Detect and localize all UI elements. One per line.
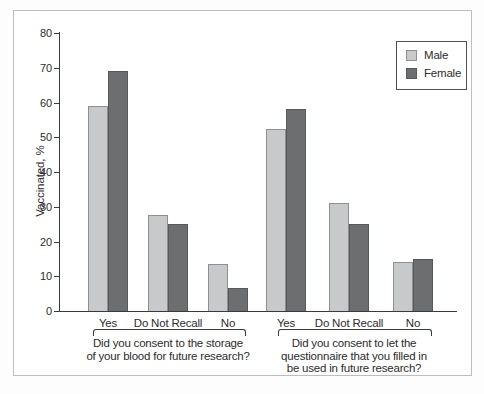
bar-group2-yes-male	[266, 129, 286, 311]
group-question: Did you consent to let thequestionnaire …	[281, 337, 427, 375]
y-tick	[54, 33, 59, 34]
group-question-line: be used in future research?	[281, 362, 427, 375]
group-question: Did you consent to the storageof your bl…	[86, 337, 249, 362]
legend-swatch-male	[406, 50, 417, 61]
bar-group2-do-not-recall-female	[349, 224, 369, 311]
bar-chart: Vaccinated, % MaleFemale 010203040506070…	[14, 11, 471, 375]
bar-group1-do-not-recall-female	[168, 224, 188, 311]
legend-item-female: Female	[406, 67, 466, 79]
x-tick-label: No	[367, 317, 459, 329]
y-tick	[54, 68, 59, 69]
legend: MaleFemale	[396, 41, 467, 90]
y-tick-label: 10	[24, 270, 52, 282]
group-question-line: Did you consent to let the	[281, 337, 427, 350]
y-tick	[54, 103, 59, 104]
y-tick-label: 0	[24, 305, 52, 317]
legend-label: Female	[424, 67, 461, 79]
bar-group1-yes-female	[108, 71, 128, 311]
y-tick-label: 80	[24, 27, 52, 39]
bar-group2-no-male	[393, 262, 413, 311]
bar-group2-do-not-recall-male	[329, 203, 349, 311]
y-tick-label: 60	[24, 97, 52, 109]
bar-group1-no-female	[228, 288, 248, 311]
group-question-line: of your blood for future research?	[86, 350, 249, 363]
group-bracket	[278, 329, 432, 336]
group-bracket	[93, 329, 246, 336]
bar-group1-do-not-recall-male	[148, 215, 168, 311]
bar-group1-no-male	[208, 264, 228, 311]
y-tick-label: 70	[24, 62, 52, 74]
bar-group1-yes-male	[88, 106, 108, 311]
y-tick	[54, 242, 59, 243]
y-tick	[54, 207, 59, 208]
y-tick-label: 50	[24, 131, 52, 143]
x-axis-line	[59, 311, 457, 312]
y-tick-label: 20	[24, 236, 52, 248]
y-tick-label: 30	[24, 201, 52, 213]
figure-frame: Vaccinated, % MaleFemale 010203040506070…	[13, 10, 472, 376]
legend-label: Male	[424, 49, 448, 61]
y-tick	[54, 137, 59, 138]
bar-group2-yes-female	[286, 109, 306, 311]
y-tick	[54, 276, 59, 277]
y-tick	[54, 311, 59, 312]
legend-swatch-female	[406, 68, 417, 79]
group-question-line: Did you consent to the storage	[86, 337, 249, 350]
legend-item-male: Male	[406, 49, 466, 61]
bar-group2-no-female	[413, 259, 433, 311]
y-tick	[54, 172, 59, 173]
y-tick-label: 40	[24, 166, 52, 178]
y-axis-line	[59, 32, 60, 312]
group-question-line: questionnaire that you filled in	[281, 350, 427, 363]
